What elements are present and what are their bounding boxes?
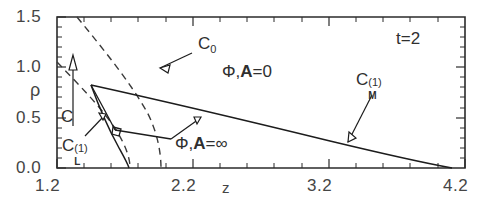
y-axis-title: ρ bbox=[30, 80, 40, 101]
c0-leader-line bbox=[160, 53, 192, 68]
cm1-base: C bbox=[356, 70, 368, 89]
y-tick-label-0-5: 0.5 bbox=[16, 108, 41, 128]
y-tick-label-1-0: 1.0 bbox=[16, 57, 41, 77]
cl1-subscript: L bbox=[74, 156, 80, 167]
c0-label: C0 bbox=[198, 34, 216, 55]
y-tick-label-1-5: 1.5 bbox=[16, 7, 41, 27]
phi-a-zero-bold-a: A bbox=[240, 62, 252, 81]
cm1-subscript: M bbox=[368, 90, 376, 101]
phi-a-inf-bracket-lower bbox=[115, 130, 171, 139]
time-annotation: t=2 bbox=[396, 29, 420, 49]
phi-a-inf-bold-a: A bbox=[193, 134, 205, 153]
cl1-boundary-curve bbox=[91, 85, 129, 168]
cm1-boundary-curve bbox=[91, 85, 452, 168]
figure-container: 1.5 1.0 0.5 0.0 ρ 1.2 2.2 3.2 4.2 z t=2 … bbox=[0, 0, 501, 208]
cl1-label: C (1) L bbox=[62, 136, 74, 156]
c0-outer-dashed-curve bbox=[77, 17, 161, 168]
cl1-leader-line bbox=[85, 116, 104, 136]
phi-a-zero-annotation: Φ,A=0 bbox=[222, 62, 272, 82]
phi-a-inf-annotation: Φ,A=∞ bbox=[175, 134, 228, 154]
c-arrow-head bbox=[69, 55, 77, 70]
c0-leader-arrowhead bbox=[160, 65, 170, 73]
cm1-label: C (1) M bbox=[356, 70, 368, 90]
phi-a-zero-prefix: Φ, bbox=[222, 62, 240, 81]
phi-a-inf-bracket-corner bbox=[112, 127, 121, 136]
x-axis-title: z bbox=[222, 179, 230, 196]
solid-boundary-curves bbox=[91, 85, 452, 168]
y-tick-label-0-0: 0.0 bbox=[16, 158, 41, 178]
cl1-superscript: (1) bbox=[74, 142, 87, 154]
phi-a-inf-leader-arrowhead bbox=[194, 117, 201, 124]
c-arrow-label: C bbox=[61, 107, 73, 127]
phi-a-inf-suffix: =∞ bbox=[206, 134, 228, 153]
cl1-inner-segment bbox=[91, 85, 115, 130]
x-tick-label-3-2: 3.2 bbox=[307, 176, 332, 196]
cl1-base: C bbox=[62, 136, 74, 155]
x-tick-label-1-2: 1.2 bbox=[35, 176, 60, 196]
phase-diagram-plot bbox=[0, 0, 501, 208]
c0-base: C bbox=[198, 34, 210, 53]
phi-a-zero-suffix: =0 bbox=[253, 62, 272, 81]
c0-subscript: 0 bbox=[210, 43, 216, 55]
x-tick-label-2-2: 2.2 bbox=[171, 176, 196, 196]
phi-a-inf-prefix: Φ, bbox=[175, 134, 193, 153]
x-tick-label-4-2: 4.2 bbox=[443, 176, 468, 196]
cm1-superscript: (1) bbox=[368, 76, 381, 88]
